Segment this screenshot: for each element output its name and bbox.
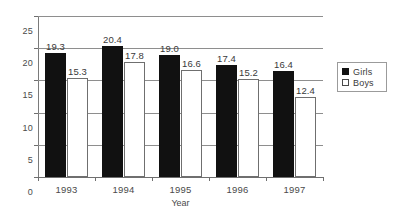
bar-girls-1997[interactable] bbox=[273, 71, 294, 177]
bar-boys-1996[interactable] bbox=[238, 79, 259, 177]
bar-group: 17.415.2 bbox=[209, 16, 266, 177]
bar-girls-1993[interactable] bbox=[45, 53, 66, 177]
bar-boys-1993[interactable] bbox=[67, 78, 88, 177]
bar-value-label: 15.2 bbox=[239, 68, 258, 78]
bar-value-label: 12.4 bbox=[296, 86, 315, 96]
y-tick-label: 15 bbox=[3, 91, 33, 100]
bar-boys-1994[interactable] bbox=[124, 62, 145, 177]
x-tick-mark bbox=[95, 177, 96, 181]
bar-value-label: 15.3 bbox=[68, 67, 87, 77]
bar-group: 20.417.8 bbox=[95, 16, 152, 177]
x-tick-label: 1994 bbox=[95, 185, 152, 195]
x-tick-mark bbox=[152, 177, 153, 181]
y-tick-label: 0 bbox=[3, 188, 33, 197]
bar-girls-1995[interactable] bbox=[159, 55, 180, 177]
bar-girls-1996[interactable] bbox=[216, 65, 237, 177]
x-tick-label: 1995 bbox=[152, 185, 209, 195]
y-tick-label: 20 bbox=[3, 59, 33, 68]
bar-value-label: 19.3 bbox=[46, 42, 65, 52]
x-axis-title: Year bbox=[38, 198, 323, 208]
bar-group: 19.016.6 bbox=[152, 16, 209, 177]
x-tick-mark bbox=[323, 177, 324, 181]
bar-chart-figure: 0510152025 19.315.320.417.819.016.617.41… bbox=[0, 0, 393, 211]
legend-item-label: Girls bbox=[353, 67, 373, 77]
legend-item-label: Boys bbox=[353, 78, 374, 88]
bar-group: 16.412.4 bbox=[266, 16, 323, 177]
bar-girls-1994[interactable] bbox=[102, 46, 123, 177]
bar-value-label: 16.6 bbox=[182, 59, 201, 69]
bar-value-label: 17.4 bbox=[217, 54, 236, 64]
y-tick-label: 5 bbox=[3, 156, 33, 165]
x-axis-line bbox=[38, 177, 323, 178]
bar-value-label: 17.8 bbox=[125, 51, 144, 61]
y-tick-label: 10 bbox=[3, 124, 33, 133]
x-tick-label: 1996 bbox=[209, 185, 266, 195]
filled-square-icon bbox=[342, 68, 349, 75]
x-tick-label: 1993 bbox=[38, 185, 95, 195]
y-axis-labels: 0510152025 bbox=[0, 16, 33, 178]
bar-boys-1995[interactable] bbox=[181, 70, 202, 177]
bar-value-label: 16.4 bbox=[274, 60, 293, 70]
legend-item-girls[interactable]: Girls bbox=[342, 66, 382, 77]
x-tick-mark bbox=[266, 177, 267, 181]
x-tick-mark bbox=[209, 177, 210, 181]
x-tick-label: 1997 bbox=[266, 185, 323, 195]
x-tick-mark bbox=[38, 177, 39, 181]
y-tick-label: 25 bbox=[3, 27, 33, 36]
legend-item-boys[interactable]: Boys bbox=[342, 77, 382, 88]
x-axis-labels: 19931994199519961997 bbox=[38, 185, 323, 197]
bar-group: 19.315.3 bbox=[38, 16, 95, 177]
empty-square-icon bbox=[342, 79, 349, 86]
plot-area: 19.315.320.417.819.016.617.415.216.412.4 bbox=[38, 16, 323, 178]
bar-value-label: 19.0 bbox=[160, 44, 179, 54]
bar-boys-1997[interactable] bbox=[295, 97, 316, 177]
chart-legend: Girls Boys bbox=[337, 62, 387, 92]
bar-value-label: 20.4 bbox=[103, 35, 122, 45]
